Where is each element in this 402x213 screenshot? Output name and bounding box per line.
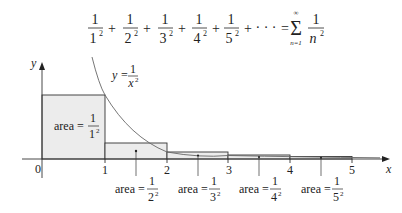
svg-text:2: 2	[340, 190, 344, 198]
svg-text:2: 2	[134, 29, 138, 38]
area-label-4: area = 1 4 2	[239, 174, 282, 204]
svg-text:n: n	[310, 31, 317, 46]
svg-text:1: 1	[272, 174, 278, 188]
svg-text:3: 3	[210, 190, 216, 204]
svg-text:3: 3	[226, 163, 232, 177]
summation: ∞ Σ n=1 1 n 2	[290, 9, 324, 47]
svg-text:1: 1	[334, 174, 340, 188]
series-formula: 1 1 2 + 1 2 2 + 1 3 2 + 1 4 2 +	[88, 9, 324, 47]
svg-text:1: 1	[127, 12, 134, 27]
svg-text:+: +	[212, 21, 220, 36]
y-axis-arrow-icon	[39, 62, 45, 70]
ellipsis: · · ·	[256, 20, 277, 35]
svg-text:4: 4	[194, 31, 201, 46]
svg-text:2: 2	[99, 29, 103, 38]
riemann-sum-diagram: 1 1 2 + 1 2 2 + 1 3 2 + 1 4 2 +	[0, 0, 402, 213]
svg-text:+: +	[143, 21, 151, 36]
svg-text:1: 1	[92, 12, 99, 27]
svg-text:2: 2	[217, 190, 221, 198]
svg-text:+: +	[178, 21, 186, 36]
svg-text:2: 2	[125, 31, 132, 46]
svg-text:4: 4	[287, 163, 293, 177]
svg-text:y =: y =	[111, 68, 128, 82]
svg-text:2: 2	[169, 29, 173, 38]
svg-text:2: 2	[135, 76, 139, 84]
term-5: 1 5 2	[224, 12, 239, 46]
svg-text:∞: ∞	[294, 9, 299, 17]
svg-text:1: 1	[89, 127, 95, 141]
y-axis-label: y	[30, 56, 37, 70]
area-label-2: area = 1 2 2	[115, 174, 159, 204]
svg-text:2: 2	[320, 29, 324, 38]
svg-text:area =: area =	[178, 182, 208, 196]
svg-text:2: 2	[203, 29, 207, 38]
svg-text:=: =	[281, 21, 289, 36]
sigma-symbol: Σ	[290, 17, 302, 39]
svg-text:x: x	[127, 76, 134, 90]
svg-text:1: 1	[313, 12, 320, 27]
svg-text:5: 5	[333, 190, 339, 204]
svg-text:1: 1	[149, 174, 155, 188]
x-axis-label: x	[385, 162, 392, 176]
svg-text:+: +	[244, 21, 252, 36]
svg-text:2: 2	[96, 127, 100, 135]
svg-text:2: 2	[235, 29, 239, 38]
x-tick-labels: 1 2 3 4 5	[102, 163, 355, 177]
svg-text:1: 1	[211, 174, 217, 188]
svg-text:area =: area =	[301, 182, 331, 196]
curve-label: y = 1 x 2	[111, 62, 139, 90]
svg-text:area =: area =	[54, 119, 84, 133]
term-3: 1 3 2	[158, 12, 173, 46]
term-2: 1 2 2	[123, 12, 138, 46]
svg-text:1: 1	[102, 163, 108, 177]
svg-text:n=1: n=1	[290, 39, 302, 47]
term-4: 1 4 2	[192, 12, 207, 46]
svg-text:2: 2	[164, 163, 170, 177]
svg-text:1: 1	[90, 111, 96, 125]
svg-text:area =: area =	[239, 182, 269, 196]
svg-text:2: 2	[148, 190, 154, 204]
svg-text:5: 5	[349, 163, 355, 177]
area-label-3: area = 1 3 2	[178, 174, 221, 204]
svg-text:1: 1	[228, 12, 235, 27]
svg-text:4: 4	[271, 190, 277, 204]
svg-text:1: 1	[130, 62, 136, 76]
svg-text:1: 1	[162, 12, 169, 27]
origin-label: 0	[35, 162, 41, 176]
svg-text:area =: area =	[115, 182, 145, 196]
svg-text:5: 5	[226, 31, 233, 46]
term-1: 1 1 2	[88, 12, 103, 46]
svg-text:+: +	[108, 21, 116, 36]
svg-text:1: 1	[196, 12, 203, 27]
svg-text:1: 1	[90, 31, 97, 46]
svg-text:2: 2	[278, 190, 282, 198]
area-label-5: area = 1 5 2	[301, 174, 344, 204]
svg-text:2: 2	[155, 190, 159, 198]
svg-text:3: 3	[160, 31, 167, 46]
